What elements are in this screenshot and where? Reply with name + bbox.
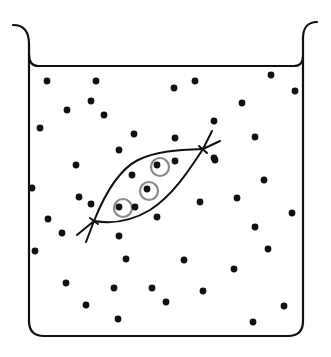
solute-particle — [200, 288, 207, 295]
solute-particle — [59, 230, 66, 237]
solute-particle — [144, 186, 151, 193]
bag-tie-bottom-left — [77, 218, 98, 242]
solute-particle — [292, 88, 299, 95]
solute-particle — [93, 78, 100, 85]
solute-particle — [131, 131, 138, 138]
solute-particle — [211, 118, 218, 125]
solute-particle — [281, 303, 288, 310]
solute-particle — [289, 210, 296, 217]
solute-particle — [73, 162, 80, 169]
solute-particle — [171, 85, 178, 92]
solute-particle — [252, 134, 259, 141]
solute-particle — [116, 147, 123, 154]
solute-particle — [88, 98, 95, 105]
solute-particle — [76, 194, 83, 201]
solute-particle — [212, 157, 219, 164]
solute-particle — [197, 199, 204, 206]
solute-particle — [154, 214, 161, 221]
bag-lower-membrane — [94, 149, 203, 222]
solute-particle — [261, 177, 268, 184]
solute-particle — [163, 299, 170, 306]
beaker-wall — [13, 22, 317, 336]
solute-particle — [101, 112, 108, 119]
beaker-outline — [13, 22, 317, 336]
solute-particle — [239, 100, 246, 107]
solute-particle — [83, 302, 90, 309]
solute-particle — [88, 201, 95, 208]
diagram-canvas: Dialysis bag in beaker (diffusion / osmo… — [0, 0, 331, 357]
solute-particle — [252, 224, 259, 231]
solute-particle — [129, 172, 136, 179]
solute-particle — [64, 107, 71, 114]
solute-particle — [149, 285, 156, 292]
solute-particle — [116, 233, 123, 240]
solute-particle — [116, 204, 123, 211]
solute-particle — [37, 125, 44, 132]
solute-particle — [44, 78, 51, 85]
solute-particle — [181, 257, 188, 264]
solute-particle — [231, 266, 238, 273]
solute-particle — [192, 78, 199, 85]
solute-particle — [172, 135, 179, 142]
solute-particle — [63, 280, 70, 287]
solute-particle — [234, 195, 241, 202]
solute-particle — [115, 316, 122, 323]
solute-particle — [154, 162, 161, 169]
solute-particle — [172, 158, 179, 165]
solute-particle — [32, 248, 39, 255]
solute-particle — [29, 185, 36, 192]
bag-tie-top-right — [199, 131, 220, 153]
solute-particle — [132, 204, 139, 211]
solute-particle — [268, 72, 275, 79]
solute-particle — [123, 256, 130, 263]
water-surface-line — [29, 54, 303, 66]
large-molecule-ring — [151, 158, 169, 176]
solute-particle — [111, 285, 118, 292]
solute-particle — [250, 319, 257, 326]
solute-particle — [45, 216, 52, 223]
solute-particle — [265, 246, 272, 253]
